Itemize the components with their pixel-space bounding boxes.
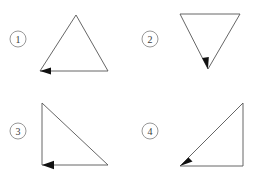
panel-4-triangle bbox=[180, 103, 243, 166]
panel-1-label: 1 bbox=[16, 34, 21, 45]
panel-4-direction-arrow-icon bbox=[180, 158, 193, 167]
panel-2-direction-arrow-icon bbox=[202, 57, 209, 69]
panel-3-triangle bbox=[42, 103, 108, 165]
panel-2: 2 bbox=[142, 14, 240, 69]
panel-2-triangle bbox=[180, 14, 240, 69]
panel-3: 3 bbox=[10, 103, 108, 169]
panel-1-triangle bbox=[40, 15, 108, 71]
panel-4-label: 4 bbox=[148, 126, 153, 137]
panel-1: 1 bbox=[10, 15, 108, 75]
panel-4: 4 bbox=[142, 103, 243, 166]
panel-3-label: 3 bbox=[16, 126, 21, 137]
panel-2-label: 2 bbox=[148, 34, 153, 45]
panel-3-direction-arrow-icon bbox=[42, 161, 54, 169]
triangle-direction-figure: 1 2 3 4 bbox=[0, 0, 261, 183]
